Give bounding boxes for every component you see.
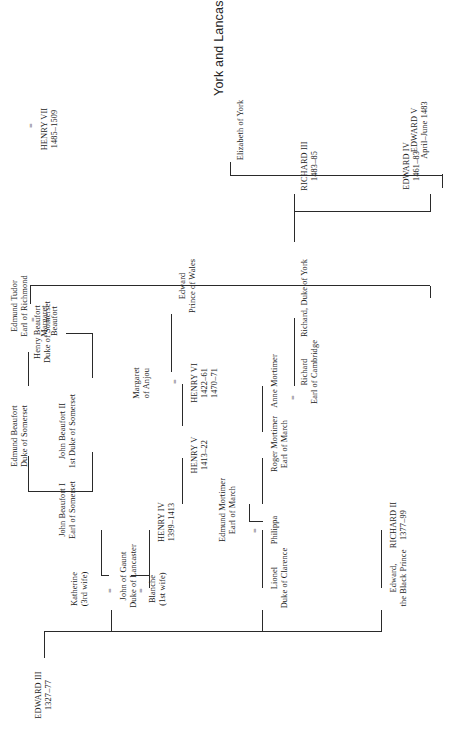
connector-cambridge-anne-bar (294, 362, 295, 386)
connector-henry-vii-to-line (30, 286, 31, 304)
connector-lionel (262, 610, 263, 632)
connector-henry-iv (149, 530, 150, 588)
node-edward-iii-dates: 1327–77 (44, 660, 54, 730)
node-henry-v-name: HENRY V (190, 420, 200, 490)
node-edmund-mortimer-title: Earl of March (228, 462, 238, 558)
connector-anne-mortimer (262, 386, 263, 432)
node-henry-beaufort-title: Duke of Somerset (43, 284, 53, 380)
node-richard-york-name: Richard, Duke of York (300, 242, 310, 354)
connector-john-beaufort-i (101, 530, 102, 576)
connector-roger-mortimer (262, 458, 263, 504)
node-richard-iii-name: RICHARD III (300, 130, 310, 202)
connector-blanche-down (131, 575, 150, 576)
figure-caption: York and Lancaster (212, 0, 226, 96)
node-henry-vi-dates2: 1470–71 (210, 350, 220, 416)
connector-richard-ii (381, 530, 382, 588)
connector-gen2-bus (44, 631, 381, 632)
node-henry-beaufort: Henry Beaufort Duke of Somerset (33, 284, 53, 380)
connector-john-of-gaunt (111, 610, 112, 632)
connector-henry-vi (182, 384, 183, 426)
node-lionel-title: Duke of Clarence (280, 532, 290, 624)
node-edward-pow-name: Edward (178, 238, 188, 334)
connector-edward-iv (430, 194, 431, 212)
connector-katherine-down (101, 575, 109, 576)
node-richard-iii: RICHARD III 1483–85 (300, 130, 320, 202)
node-richard-ii: RICHARD II 1377–99 (389, 492, 409, 558)
node-richard-york: Richard, Duke of York (300, 242, 310, 354)
connector-philippa (262, 530, 263, 588)
node-blanche: Blanche (1st wife) (148, 554, 168, 624)
node-henry-vi: HENRY VI 1422–61 1470–71 (190, 350, 220, 416)
node-edmund-tudor: Edmund Tudor Earl of Richmond (10, 258, 30, 354)
node-roger-mortimer-title: Earl of March (280, 398, 290, 490)
node-john-beaufort-ii-title: 1st Duke of Somerset (68, 378, 78, 484)
node-anne-mortimer: Anne Mortimer (270, 342, 280, 420)
node-philippa-name: Philippa (270, 502, 280, 558)
node-edward-v-dates: April–June 1483 (420, 84, 430, 176)
node-anne-mortimer-name: Anne Mortimer (270, 342, 280, 420)
node-margaret-anjou-title: of Anjou (142, 350, 152, 416)
node-henry-iv: HENRY IV 1399–1413 (157, 486, 177, 558)
node-edmund-mortimer: Edmund Mortimer Earl of March (218, 462, 238, 558)
node-edmund-tudor-title: Earl of Richmond (20, 258, 30, 354)
node-henry-vii-dates: 1485–1509 (50, 90, 60, 168)
connector-edward-v (442, 174, 443, 188)
node-henry-vii-name: HENRY VII (40, 90, 50, 168)
connector-henry-v (182, 458, 183, 504)
connector-margaret-beaufort-riser (66, 333, 93, 334)
connector-margaret-beaufort (92, 334, 93, 378)
node-henry-vii: HENRY VII 1485–1509 (40, 90, 60, 168)
node-edmund-tudor-name: Edmund Tudor (10, 258, 20, 354)
node-katherine-name: Katherine (70, 554, 80, 624)
node-henry-iv-dates: 1399–1413 (167, 486, 177, 558)
node-henry-v: HENRY V 1413–22 (190, 420, 210, 490)
node-edward-pow: Edward Prince of Wales (178, 238, 198, 334)
connector-york-children-stem (294, 212, 295, 242)
connector-elizabeth-york (230, 162, 231, 176)
connector-black-prince (381, 610, 382, 632)
connector-richard-iii (294, 194, 295, 212)
node-richard-ii-dates: 1377–99 (399, 492, 409, 558)
marriage-symbol-gaunt-katherine: = (107, 588, 115, 593)
connector-beaufort-sibling-bus (28, 491, 92, 492)
node-elizabeth-york-name: Elizabeth of York (236, 84, 246, 176)
node-edmund-mortimer-name: Edmund Mortimer (218, 462, 228, 558)
node-richard-iii-dates: 1483–85 (310, 130, 320, 202)
node-margaret-anjou: Margaret of Anjou (132, 350, 152, 416)
node-edmund-beaufort-name: Edmund Beaufort (10, 388, 20, 484)
node-john-beaufort-ii-name: John Beaufort II (58, 378, 68, 484)
node-henry-v-dates: 1413–22 (200, 420, 210, 490)
node-katherine-note: (3rd wife) (80, 554, 90, 624)
node-edward-pow-title: Prince of Wales (188, 238, 198, 334)
node-edward-iii: EDWARD III 1327–77 (34, 660, 54, 730)
node-john-beaufort-ii: John Beaufort II 1st Duke of Somerset (58, 378, 78, 484)
node-john-of-gaunt: John of Gaunt Duke of Lancaster (119, 528, 139, 624)
node-edmund-beaufort: Edmund Beaufort Duke of Somerset (10, 388, 30, 484)
connector-york-children-bus (294, 211, 430, 212)
node-edmund-beaufort-title: Duke of Somerset (20, 388, 30, 484)
marriage-symbol-philippa-mortimer: = (252, 528, 260, 533)
connector-henry-vii-entry (430, 286, 431, 298)
node-richard-ii-name: RICHARD II (389, 492, 399, 558)
node-philippa: Philippa (270, 502, 280, 558)
node-john-of-gaunt-name: John of Gaunt (119, 528, 129, 624)
node-john-of-gaunt-title: Duke of Lancaster (129, 528, 139, 624)
connector-richard-york (294, 318, 295, 362)
marriage-symbol-elizabeth-henryvii: = (28, 123, 36, 128)
connector-henry-beaufort (28, 352, 29, 386)
node-henry-beaufort-name: Henry Beaufort (33, 284, 43, 380)
connector-edward-iii-stem (44, 632, 45, 658)
connector-edward-pow (171, 314, 172, 372)
connector-john-beaufort-ii (92, 452, 93, 492)
node-elizabeth-york: Elizabeth of York (236, 84, 246, 176)
marriage-symbol-cambridge-anne: = (290, 395, 298, 400)
node-edward-v-name: EDWARD V (410, 84, 420, 176)
node-margaret-anjou-name: Margaret (132, 350, 142, 416)
node-henry-iv-name: HENRY IV (157, 486, 167, 558)
family-tree-canvas: EDWARD III 1327–77 Edward, the Black Pri… (0, 0, 460, 736)
marriage-symbol-henryvi-margaret: = (172, 379, 180, 384)
node-blanche-note: (1st wife) (158, 554, 168, 624)
connector-philippa-descend (249, 521, 263, 522)
node-richard-cambridge-title: Earl of Cambridge (310, 324, 320, 420)
connector-henry-vii-long-drop (30, 285, 430, 286)
